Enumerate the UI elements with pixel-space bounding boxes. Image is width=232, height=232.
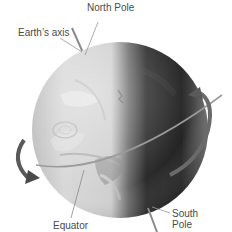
south-pole-label-line1: South bbox=[172, 208, 198, 219]
globe bbox=[32, 42, 222, 218]
earth-rotation-diagram: North Pole Earth’s axis Equator South Po… bbox=[0, 0, 232, 232]
north-pole-label: North Pole bbox=[87, 2, 134, 13]
earths-axis-label: Earth’s axis bbox=[18, 27, 70, 38]
south-pole-label: South Pole bbox=[172, 208, 198, 230]
south-pole-label-line2: Pole bbox=[172, 219, 198, 230]
equator-label: Equator bbox=[53, 220, 88, 231]
